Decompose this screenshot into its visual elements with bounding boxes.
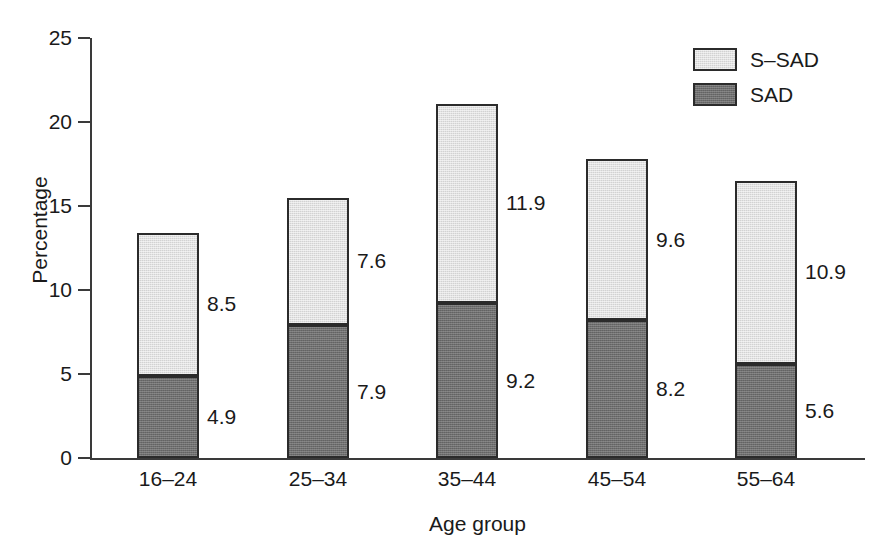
chart-legend: S–SADSAD (693, 44, 819, 114)
bar-value-label-s-sad: 8.5 (207, 293, 236, 314)
x-axis-category-label: 35–44 (407, 468, 527, 490)
legend-item[interactable]: S–SAD (693, 44, 819, 75)
bar-value-label-s-sad: 7.6 (357, 250, 386, 271)
bar-value-label-sad: 8.2 (656, 378, 685, 399)
bar-segment-s-sad[interactable] (586, 159, 648, 320)
legend-swatch-light-gray (693, 48, 737, 71)
bar-segment-s-sad[interactable] (735, 181, 797, 364)
y-axis-tick-mark (78, 289, 90, 291)
x-axis-title: Age group (90, 512, 865, 536)
x-axis-category-label: 55–64 (706, 468, 826, 490)
y-axis-tick-mark (78, 205, 90, 207)
bar-value-label-sad: 5.6 (805, 400, 834, 421)
stacked-bar-chart: 2520151050 Percentage Age group 8.54.916… (0, 0, 883, 548)
bar-segment-sad[interactable] (735, 364, 797, 458)
y-axis-tick-label: 5 (28, 363, 72, 384)
bar-segment-s-sad[interactable] (137, 233, 199, 376)
y-axis-line (90, 38, 92, 459)
y-axis-tick-label: 20 (28, 111, 72, 132)
y-axis-tick-label: 25 (28, 27, 72, 48)
x-axis-category-label: 16–24 (108, 468, 228, 490)
bar-value-label-s-sad: 11.9 (506, 192, 545, 213)
y-axis-tick-mark (78, 373, 90, 375)
x-axis-category-label: 25–34 (258, 468, 378, 490)
x-axis-line (90, 458, 865, 460)
y-axis-title: Percentage (28, 130, 52, 330)
legend-label: SAD (750, 84, 793, 105)
y-axis-tick-mark (78, 121, 90, 123)
x-axis-category-label: 45–54 (557, 468, 677, 490)
bar-segment-s-sad[interactable] (287, 198, 349, 326)
y-axis-tick-mark (78, 457, 90, 459)
legend-swatch-dark-gray (693, 83, 737, 106)
bar-segment-sad[interactable] (137, 376, 199, 458)
bar-segment-sad[interactable] (586, 320, 648, 458)
bar-value-label-s-sad: 10.9 (805, 261, 846, 282)
legend-item[interactable]: SAD (693, 79, 819, 110)
bar-segment-sad[interactable] (287, 325, 349, 458)
bar-value-label-sad: 7.9 (357, 381, 386, 402)
bar-segment-sad[interactable] (436, 303, 498, 458)
y-axis-tick-label: 0 (28, 447, 72, 468)
y-axis-tick-mark (78, 37, 90, 39)
bar-value-label-sad: 9.2 (506, 370, 535, 391)
legend-label: S–SAD (750, 49, 819, 70)
bar-segment-s-sad[interactable] (436, 104, 498, 304)
bar-value-label-s-sad: 9.6 (656, 229, 685, 250)
bar-value-label-sad: 4.9 (207, 406, 236, 427)
